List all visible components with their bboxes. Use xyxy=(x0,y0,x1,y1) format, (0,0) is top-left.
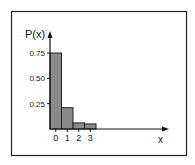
x-tick-label: 2 xyxy=(76,133,81,143)
y-tick-label: 0.25 xyxy=(29,100,45,109)
x-axis-label: x xyxy=(158,134,163,145)
x-tick-label: 3 xyxy=(88,133,93,143)
y-axis-label: P(x) xyxy=(25,28,45,40)
y-tick-label: 0.50 xyxy=(29,74,45,83)
bar-1 xyxy=(62,108,74,129)
y-tick-label: 0.75 xyxy=(29,49,45,58)
bar-2 xyxy=(73,123,85,129)
x-tick-label: 1 xyxy=(65,133,70,143)
chart: 0.250.500.75 0123 P(x) x xyxy=(0,0,195,165)
bar-0 xyxy=(50,53,62,129)
bar-3 xyxy=(85,124,97,129)
x-tick-label: 0 xyxy=(53,133,58,143)
